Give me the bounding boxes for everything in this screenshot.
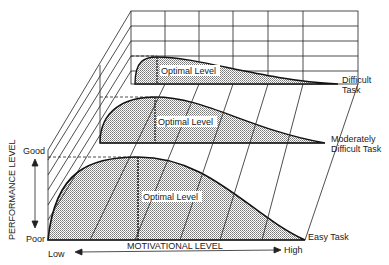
y-axis-arrow xyxy=(32,159,38,228)
svg-text:Optimal Level: Optimal Level xyxy=(161,66,216,76)
moderate-label-2: Difficult Task xyxy=(331,144,382,154)
easy-label: Easy Task xyxy=(308,232,349,242)
good-label: Good xyxy=(23,146,45,156)
yerkes-dodson-diagram: Optimal Level Optimal Level Optimal Leve… xyxy=(0,0,389,265)
low-label: Low xyxy=(48,249,65,259)
moderate-label-1: Moderately xyxy=(331,134,376,144)
svg-text:Optimal Level: Optimal Level xyxy=(143,192,198,202)
diagram-canvas: Optimal Level Optimal Level Optimal Leve… xyxy=(0,0,389,265)
y-axis-title: PERFORMANCE LEVEL xyxy=(7,139,17,240)
difficult-label-2: Task xyxy=(342,85,361,95)
x-axis-title: MOTIVATIONAL LEVEL xyxy=(127,241,223,251)
high-label: High xyxy=(284,245,303,255)
difficult-label-1: Difficult xyxy=(342,75,372,85)
poor-label: Poor xyxy=(26,234,45,244)
svg-text:Optimal Level: Optimal Level xyxy=(158,117,213,127)
